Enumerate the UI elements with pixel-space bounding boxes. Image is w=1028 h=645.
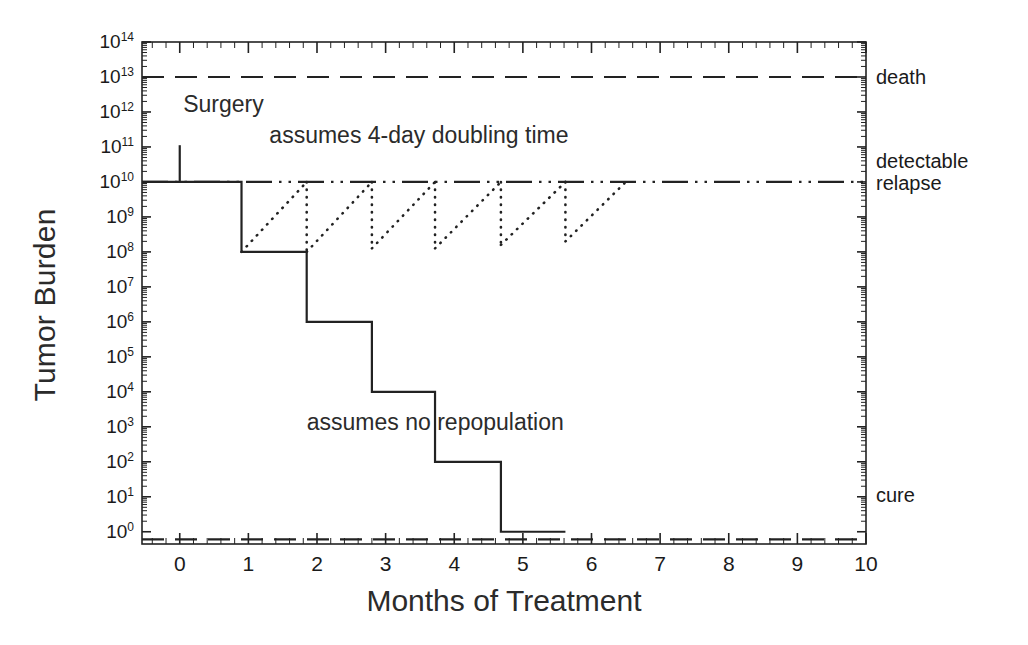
repopulation-rise-2: [307, 182, 372, 252]
x-tick-label-4: 4: [424, 552, 484, 576]
y-tick-label-10e5: 105: [64, 347, 134, 366]
repopulation-rise-1: [242, 182, 307, 252]
x-axis-title: Months of Treatment: [142, 584, 866, 618]
repopulation-rise-5: [501, 182, 566, 245]
x-tick-label-5: 5: [493, 552, 553, 576]
x-tick-label-10: 10: [836, 552, 896, 576]
y-tick-label-10e4: 104: [64, 382, 134, 401]
y-tick-label-10e11: 1011: [64, 137, 134, 156]
y-tick-label-10e8: 108: [64, 242, 134, 261]
reference-label-detectable-relapse-line1: detectable: [876, 150, 968, 172]
annotation-no-repopulation: assumes no repopulation: [307, 409, 564, 436]
annotation-surgery: Surgery: [183, 91, 264, 118]
y-tick-label-10e14: 1014: [64, 32, 134, 51]
tumor-burden-chart: Tumor Burden 100101102103104105106107108…: [0, 0, 1028, 645]
x-tick-label-1: 1: [218, 552, 278, 576]
repopulation-rise-4: [435, 182, 501, 248]
y-axis-tick-labels: 1001011021031041051061071081091010101110…: [60, 0, 134, 645]
y-tick-label-10e10: 1010: [64, 172, 134, 191]
reference-label-detectable-relapse: detectable relapse: [876, 150, 968, 195]
reference-label-death: death: [876, 66, 926, 88]
x-tick-label-6: 6: [561, 552, 621, 576]
x-tick-label-8: 8: [699, 552, 759, 576]
repopulation-rise-3: [372, 182, 435, 248]
reference-label-cure: cure: [876, 484, 915, 506]
y-tick-label-10e3: 103: [64, 417, 134, 436]
x-tick-label-3: 3: [356, 552, 416, 576]
plot-area: [0, 0, 1028, 645]
y-axis-title: Tumor Burden: [28, 208, 62, 401]
reference-label-detectable-relapse-line2: relapse: [876, 172, 968, 194]
y-tick-label-10e0: 100: [64, 522, 134, 541]
x-tick-label-7: 7: [630, 552, 690, 576]
y-tick-label-10e2: 102: [64, 452, 134, 471]
x-tick-label-9: 9: [767, 552, 827, 576]
y-tick-label-10e6: 106: [64, 312, 134, 331]
y-tick-label-10e1: 101: [64, 487, 134, 506]
annotation-doubling-time: assumes 4-day doubling time: [269, 122, 568, 149]
y-tick-label-10e13: 1013: [64, 67, 134, 86]
repopulation-rise-6: [565, 182, 625, 241]
x-tick-label-0: 0: [150, 552, 210, 576]
y-tick-label-10e7: 107: [64, 277, 134, 296]
y-tick-label-10e9: 109: [64, 207, 134, 226]
y-tick-label-10e12: 1012: [64, 102, 134, 121]
x-tick-label-2: 2: [287, 552, 347, 576]
